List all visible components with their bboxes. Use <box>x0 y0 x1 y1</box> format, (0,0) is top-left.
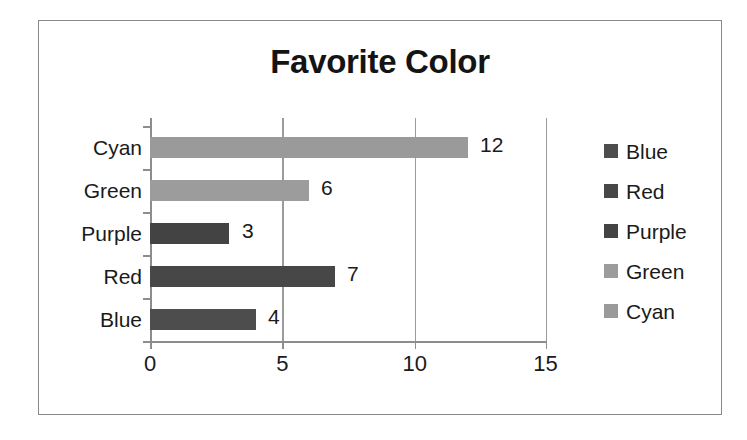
bar-band-cyan: 12 <box>150 126 547 169</box>
x-axis-line <box>150 341 547 343</box>
x-axis-tick-labels: 0 5 10 15 <box>150 351 547 381</box>
chart-title: Favorite Color <box>39 43 721 81</box>
bar-value-red: 7 <box>347 262 359 286</box>
bar-green[interactable] <box>150 180 309 201</box>
y-axis-label-green: Green <box>84 179 142 203</box>
chart-legend: Blue Red Purple Green Cyan <box>604 131 714 331</box>
legend-label-cyan: Cyan <box>626 301 675 322</box>
y-axis-label-purple: Purple <box>81 222 142 246</box>
legend-item-cyan[interactable]: Cyan <box>604 291 714 331</box>
y-axis-label-blue: Blue <box>100 308 142 332</box>
x-tick-15 <box>546 341 547 349</box>
x-tick-label-15: 15 <box>533 351 557 377</box>
y-tick-5 <box>143 341 150 343</box>
bar-blue[interactable] <box>150 309 256 330</box>
bar-value-purple: 3 <box>242 219 254 243</box>
bar-value-blue: 4 <box>268 305 280 329</box>
legend-swatch-cyan-icon <box>604 304 618 318</box>
y-axis-category-labels: Cyan Green Purple Red Blue <box>39 126 142 341</box>
bar-band-purple: 3 <box>150 212 547 255</box>
x-tick-label-10: 10 <box>402 351 426 377</box>
legend-item-red[interactable]: Red <box>604 171 714 211</box>
bar-band-green: 6 <box>150 169 547 212</box>
legend-item-purple[interactable]: Purple <box>604 211 714 251</box>
y-tick-2 <box>143 212 150 214</box>
legend-swatch-purple-icon <box>604 224 618 238</box>
x-tick-label-0: 0 <box>144 351 156 377</box>
legend-label-red: Red <box>626 181 665 202</box>
x-tick-10 <box>415 341 416 349</box>
y-tick-0 <box>143 126 150 128</box>
legend-swatch-red-icon <box>604 184 618 198</box>
y-axis-label-red: Red <box>103 265 142 289</box>
bar-band-blue: 4 <box>150 298 547 341</box>
bar-value-green: 6 <box>321 176 333 200</box>
y-axis-label-cyan: Cyan <box>93 136 142 160</box>
bar-band-red: 7 <box>150 255 547 298</box>
chart-frame: Favorite Color Cyan Green Purple Red Blu… <box>38 20 722 415</box>
bar-cyan[interactable] <box>150 137 468 158</box>
x-tick-5 <box>282 341 283 349</box>
plot-area: 12 6 3 7 4 <box>150 126 547 356</box>
legend-label-blue: Blue <box>626 141 668 162</box>
legend-swatch-blue-icon <box>604 144 618 158</box>
legend-swatch-green-icon <box>604 264 618 278</box>
legend-item-blue[interactable]: Blue <box>604 131 714 171</box>
legend-item-green[interactable]: Green <box>604 251 714 291</box>
y-tick-1 <box>143 169 150 171</box>
bar-red[interactable] <box>150 266 335 287</box>
legend-label-green: Green <box>626 261 684 282</box>
bar-value-cyan: 12 <box>480 133 503 157</box>
x-tick-0 <box>150 341 151 349</box>
legend-label-purple: Purple <box>626 221 687 242</box>
y-tick-3 <box>143 255 150 257</box>
y-tick-4 <box>143 298 150 300</box>
bar-purple[interactable] <box>150 223 229 244</box>
x-tick-label-5: 5 <box>276 351 288 377</box>
